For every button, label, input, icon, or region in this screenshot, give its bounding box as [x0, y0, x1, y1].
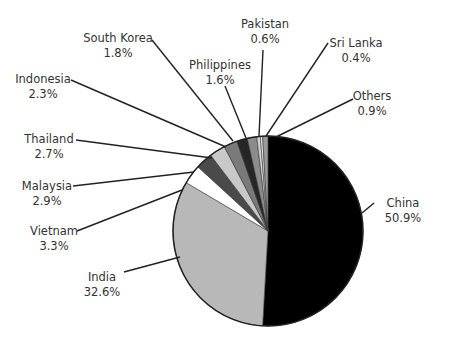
- label-vietnam: Vietnam3.3%: [30, 224, 78, 253]
- label-malaysia: Malaysia2.9%: [22, 179, 72, 208]
- label-china: China50.9%: [385, 196, 422, 225]
- pie-slice-china: [263, 136, 363, 326]
- label-sri-lanka: Sri Lanka0.4%: [329, 36, 382, 65]
- label-thailand: Thailand2.7%: [23, 132, 73, 161]
- label-india: India32.6%: [84, 270, 121, 299]
- leader-line-india: [124, 257, 180, 272]
- pie-slices: [173, 136, 363, 326]
- label-philippines: Philippines1.6%: [189, 58, 251, 87]
- pie-chart: China50.9% India32.6% Vietnam3.3% Malays…: [0, 0, 452, 341]
- leader-line-pakistan: [259, 50, 263, 136]
- leader-line-south-korea: [152, 40, 233, 141]
- leader-line-malaysia: [73, 172, 194, 186]
- label-indonesia: Indonesia2.3%: [15, 72, 71, 101]
- leader-line-thailand: [76, 140, 212, 158]
- label-pakistan: Pakistan0.6%: [241, 17, 289, 46]
- label-south-korea: South Korea1.8%: [83, 31, 153, 60]
- label-others: Others0.9%: [353, 89, 392, 118]
- leader-line-indonesia: [71, 80, 226, 147]
- leader-line-china: [362, 203, 374, 213]
- leader-line-sri-lanka: [266, 43, 328, 136]
- leader-line-vietnam: [77, 190, 182, 231]
- leader-line-philippines: [225, 86, 246, 138]
